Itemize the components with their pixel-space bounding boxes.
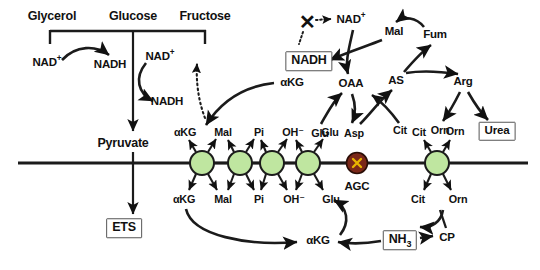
argininosuccinate-lyase-arrows	[404, 45, 458, 74]
label-akg-bottom-1: αKG	[173, 194, 195, 205]
label-nadh-glucose: NADH	[151, 96, 183, 108]
label-ets-box: ETS	[106, 218, 142, 238]
label-cit-bottom: Cit	[411, 194, 425, 205]
inhibition-x-icon: ✕	[299, 10, 316, 34]
transporter-pi-oh[interactable]	[260, 151, 284, 175]
label-orn-bottom: Orn	[449, 194, 468, 205]
label-akg-cytosolic-in: αKG	[174, 127, 196, 138]
label-orn-mitochondrial: Orn	[431, 125, 450, 136]
label-fum: Fum	[423, 29, 447, 41]
label-as: AS	[388, 75, 404, 87]
label-mal-top-1: Mal	[214, 127, 231, 138]
label-cit-top: Cit	[412, 127, 426, 138]
diagram-canvas: Glycerol Glucose Fructose NAD+ NADH NAD+…	[0, 0, 540, 270]
argininosuccinate-synthesis-arrows	[360, 90, 399, 124]
transporter-cit-orn[interactable]	[425, 151, 449, 175]
label-pi-top: Pi	[254, 127, 264, 138]
nad-regeneration-dotted-arrow	[197, 64, 205, 118]
label-fructose: Fructose	[179, 10, 230, 23]
label-nad-mitochondrial: NAD+	[337, 14, 366, 26]
label-oh-top: OH⁻	[282, 127, 303, 138]
transamination-arrows	[321, 93, 355, 124]
label-akg-mitochondrial: αKG	[280, 77, 304, 89]
transporter-mal-pi[interactable]	[228, 151, 252, 175]
nh3-to-cp-arrow	[420, 236, 433, 238]
ornithine-transcarbamylase-arrows	[420, 210, 446, 228]
label-urea-box: Urea	[479, 122, 516, 141]
substrate-bracket	[50, 30, 206, 44]
label-mal-bottom: Mal	[214, 194, 231, 205]
label-nadh-glycerol: NADH	[94, 59, 126, 71]
transporter-oh-glu[interactable]	[296, 151, 320, 175]
label-glu-bottom: Glu	[322, 194, 339, 205]
label-nad-glucose: NAD+	[146, 51, 175, 63]
transporter-agc-blocked[interactable]	[347, 153, 368, 174]
label-nh3-box: NH3	[383, 230, 417, 250]
cytosolic-akg-return-curve	[186, 209, 297, 243]
label-nadh-box: NADH	[285, 51, 332, 71]
transporter-akg-mal[interactable]	[190, 151, 214, 175]
label-oh-bottom: OH⁻	[283, 194, 304, 205]
label-cit-mitochondrial: Cit	[393, 125, 407, 136]
label-glucose: Glucose	[109, 10, 157, 23]
label-glu-mitochondrial: Glu	[311, 128, 328, 139]
label-cp: CP	[439, 232, 455, 244]
label-arg: Arg	[453, 76, 472, 88]
label-mal-mitochondrial: Mal	[385, 26, 404, 38]
label-pi-bottom: Pi	[254, 194, 264, 205]
label-agc: AGC	[345, 181, 370, 193]
label-oaa: OAA	[339, 78, 364, 90]
arginase-arrows	[443, 92, 488, 121]
nh3-to-akg-arrow	[338, 241, 381, 243]
glutamate-synthesis-arrow	[334, 200, 346, 235]
label-pyruvate: Pyruvate	[97, 137, 148, 150]
label-akg-bottom-center: αKG	[306, 235, 330, 247]
akg-export-curve	[206, 83, 274, 125]
malate-dehydrogenase-arrows	[330, 30, 382, 74]
label-asp: Asp	[344, 128, 364, 139]
label-nad-glycerol: NAD+	[33, 57, 62, 69]
label-glycerol: Glycerol	[28, 10, 76, 23]
